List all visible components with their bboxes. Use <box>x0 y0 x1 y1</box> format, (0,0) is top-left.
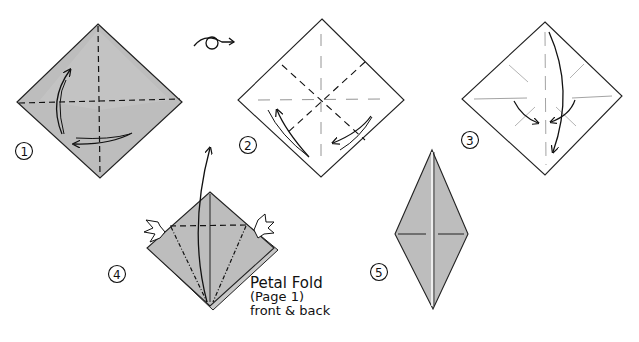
petal-fold-note: Petal Fold (Page 1) front & back <box>250 276 330 318</box>
step-4-crimp-right-icon <box>254 214 274 238</box>
turn-over-icon <box>194 37 234 49</box>
note-page-ref: (Page 1) <box>250 290 330 304</box>
step-1-number: 1 <box>21 145 29 159</box>
note-front-back: front & back <box>250 304 330 318</box>
step-5-number: 5 <box>375 266 383 280</box>
step-5-diagram: 5 <box>371 150 469 309</box>
note-title: Petal Fold <box>250 276 330 290</box>
step-2-number: 2 <box>244 139 252 153</box>
step-3-number: 3 <box>466 134 474 148</box>
step-2-diagram: 2 <box>238 19 404 177</box>
step-3-diagram: 3 <box>462 22 623 175</box>
step-1-diagram: 1 <box>16 24 183 178</box>
step-4-number: 4 <box>113 268 121 282</box>
